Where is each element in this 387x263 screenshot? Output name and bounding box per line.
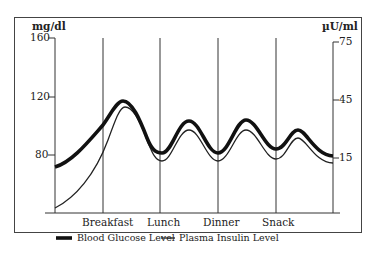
right-axis-unit: µU/ml [322,20,358,32]
legend-glucose-label: Blood Glucose Level [77,232,175,243]
right-tick-label: 15 [339,151,352,163]
legend-insulin-label: Plasma Insulin Level [179,232,279,243]
x-label-snack: Snack [262,216,294,228]
left-tick-label: 160 [30,31,50,43]
left-tick-label: 120 [30,90,50,102]
chart-plot [0,0,387,263]
right-tick-label: 45 [339,93,352,105]
right-tick-label: 75 [339,35,352,47]
x-label-breakfast: Breakfast [82,216,133,228]
glucose-series-line [55,101,333,167]
left-tick-label: 80 [35,148,48,160]
x-label-dinner: Dinner [203,216,240,228]
x-label-lunch: Lunch [147,216,180,228]
